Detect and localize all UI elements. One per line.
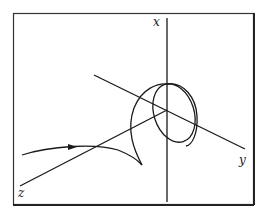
direction-arrow-icon	[68, 144, 77, 150]
trajectory-curve	[22, 78, 202, 165]
diagram-canvas: x y z	[0, 0, 260, 215]
x-axis-label: x	[153, 15, 160, 29]
y-axis	[94, 75, 245, 149]
z-axis	[20, 110, 167, 186]
y-axis-label: y	[238, 153, 246, 167]
z-axis-label: z	[17, 186, 25, 200]
